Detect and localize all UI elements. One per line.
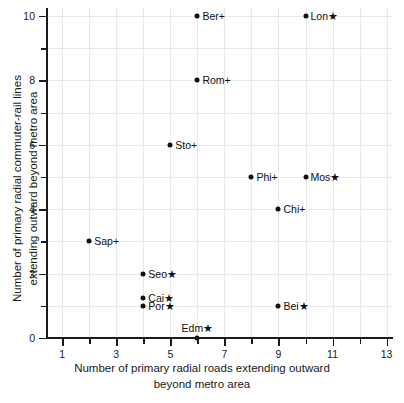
data-point-marker <box>87 239 92 244</box>
data-point-marker <box>168 142 173 147</box>
data-point-marker <box>141 303 146 308</box>
gridline-vertical <box>197 8 198 338</box>
data-point-label: Rom+ <box>202 75 230 86</box>
y-axis-line <box>46 8 48 339</box>
y-axis-tick-minor <box>41 177 46 178</box>
data-point-marker <box>195 14 200 19</box>
data-point-label: Ber+ <box>202 11 224 22</box>
x-axis-tick-major <box>224 339 225 346</box>
x-axis-tick-label: 9 <box>263 349 293 360</box>
x-axis-tick-minor <box>306 339 307 344</box>
x-axis-tick-label: 3 <box>101 349 131 360</box>
y-axis-tick-minor <box>41 48 46 49</box>
y-axis-title: Number of primary radial commuter-rail l… <box>10 24 41 354</box>
x-axis-tick-minor <box>89 339 90 344</box>
gridline-vertical <box>116 8 117 338</box>
data-point-label: Sto+ <box>175 140 197 151</box>
data-point-marker <box>141 271 146 276</box>
x-axis-tick-major <box>116 339 117 346</box>
data-point-label: Mos★ <box>311 172 341 183</box>
data-point-marker <box>276 303 281 308</box>
x-axis-tick-minor <box>251 339 252 344</box>
gridline-vertical <box>170 8 171 338</box>
data-point-label: Por★ <box>148 301 174 312</box>
y-axis-tick-minor <box>41 113 46 114</box>
gridline-horizontal <box>46 113 392 114</box>
data-point-label: Lon★ <box>311 11 339 22</box>
data-point-label: Phi+ <box>256 172 277 183</box>
data-point-marker <box>141 295 146 300</box>
data-point-marker <box>303 14 308 19</box>
x-axis-tick-label: 7 <box>209 349 239 360</box>
gridline-vertical <box>224 8 225 338</box>
y-axis-title-line2: extending outward beyond metro area <box>26 24 42 354</box>
gridline-horizontal <box>46 48 392 49</box>
data-point-label: Sap+ <box>94 236 119 247</box>
y-axis-tick-minor <box>41 306 46 307</box>
gridline-horizontal <box>46 306 392 307</box>
y-axis-tick-minor <box>41 241 46 242</box>
x-axis-tick-label: 13 <box>372 349 402 360</box>
gridline-vertical <box>62 8 63 338</box>
data-point-marker <box>303 175 308 180</box>
x-axis-title: Number of primary radial roads extending… <box>0 361 404 392</box>
y-axis-title-line1: Number of primary radial commuter-rail l… <box>10 24 26 354</box>
x-axis-tick-minor <box>360 339 361 344</box>
x-axis-line <box>46 337 393 339</box>
gridline-horizontal <box>46 209 392 210</box>
gridline-vertical <box>387 8 388 338</box>
data-point-marker <box>276 207 281 212</box>
x-axis-tick-major <box>387 339 388 346</box>
x-axis-title-line2: beyond metro area <box>0 377 404 393</box>
data-point-label: Chi+ <box>283 204 305 215</box>
x-axis-tick-major <box>62 339 63 346</box>
x-axis-tick-minor <box>143 339 144 344</box>
gridline-vertical <box>251 8 252 338</box>
data-point-marker <box>249 175 254 180</box>
x-axis-tick-label: 5 <box>155 349 185 360</box>
x-axis-title-line1: Number of primary radial roads extending… <box>0 361 404 377</box>
gridline-vertical <box>143 8 144 338</box>
gridline-vertical <box>89 8 90 338</box>
gridline-vertical <box>306 8 307 338</box>
x-axis-tick-major <box>170 339 171 346</box>
x-axis-tick-major <box>333 339 334 346</box>
gridline-vertical <box>360 8 361 338</box>
y-axis-tick-major <box>39 16 46 17</box>
data-point-label: Seo★ <box>148 268 177 279</box>
x-axis-tick-label: 1 <box>47 349 77 360</box>
y-axis-tick-label: 10 <box>8 11 35 22</box>
data-point-label: Edm★ <box>182 323 214 334</box>
scatter-chart-figure: Ber+Lon★Rom+Sto+Phi+Mos★Chi+Sap+Seo★Cai★… <box>0 0 404 403</box>
gridline-vertical <box>278 8 279 338</box>
x-axis-tick-minor <box>197 339 198 344</box>
x-axis-tick-label: 11 <box>318 349 348 360</box>
gridline-horizontal <box>46 145 392 146</box>
x-axis-tick-major <box>278 339 279 346</box>
data-point-label: Bei★ <box>283 301 308 312</box>
plot-area: Ber+Lon★Rom+Sto+Phi+Mos★Chi+Sap+Seo★Cai★… <box>46 8 392 338</box>
gridline-horizontal <box>46 274 392 275</box>
data-point-marker <box>195 78 200 83</box>
